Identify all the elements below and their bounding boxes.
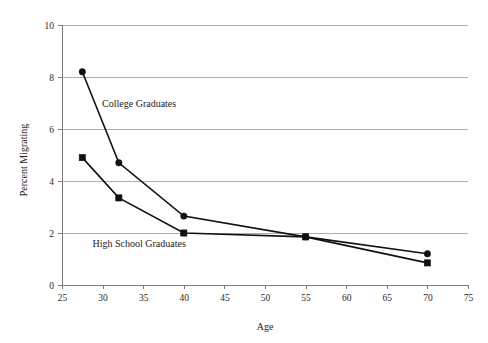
migration-line-chart: 0246810 2530354045505560657075 College G… (0, 0, 488, 343)
high-school-graduates-label: High School Graduates (92, 238, 185, 249)
x-axis-title: Age (257, 321, 274, 332)
data-point-1-0 (79, 155, 85, 161)
x-tick-label-65: 65 (383, 293, 393, 303)
data-point-0-0 (79, 69, 85, 75)
y-axis-title: Percent Migrating (18, 124, 29, 196)
x-tick-label-70: 70 (423, 293, 433, 303)
x-tick-label-30: 30 (98, 293, 108, 303)
x-tick-label-45: 45 (220, 293, 230, 303)
y-tick-label-2: 2 (49, 229, 54, 239)
data-point-1-3 (303, 234, 309, 240)
y-tick-label-0: 0 (49, 281, 54, 291)
x-tick-label-25: 25 (58, 293, 68, 303)
x-tick-label-40: 40 (180, 293, 190, 303)
x-tick-label-75: 75 (464, 293, 474, 303)
y-tick-label-8: 8 (49, 73, 54, 83)
x-tick-group: 2530354045505560657075 (58, 285, 474, 303)
y-tick-label-4: 4 (49, 177, 54, 187)
x-tick-label-50: 50 (261, 293, 271, 303)
data-point-0-1 (116, 160, 122, 166)
y-tick-label-6: 6 (49, 125, 54, 135)
data-point-1-4 (424, 260, 430, 266)
data-point-0-4 (424, 251, 430, 257)
x-tick-label-60: 60 (342, 293, 352, 303)
x-tick-label-35: 35 (139, 293, 149, 303)
chart-container: 0246810 2530354045505560657075 College G… (0, 0, 488, 343)
college-graduates-label: College Graduates (102, 98, 176, 109)
data-point-1-1 (116, 195, 122, 201)
y-tick-label-10: 10 (45, 21, 55, 31)
x-tick-label-55: 55 (301, 293, 311, 303)
data-point-1-2 (181, 230, 187, 236)
y-tick-group: 0246810 (45, 21, 63, 291)
data-point-0-2 (181, 213, 187, 219)
